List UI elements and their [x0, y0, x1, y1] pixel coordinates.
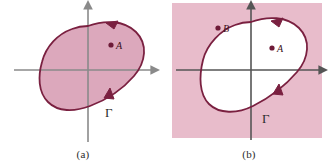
- point-label-a: A: [276, 43, 284, 54]
- point-label-b: B: [223, 23, 229, 34]
- panel-b: B A Γ (b): [166, 0, 332, 162]
- curve-label-gamma-a: Γ: [105, 105, 113, 120]
- point-marker-b: [215, 25, 220, 30]
- curve-label-gamma-b: Γ: [262, 111, 270, 126]
- point-marker-a: [269, 45, 274, 50]
- panel-caption-b: (b): [166, 148, 332, 160]
- panel-caption-a: (a): [0, 148, 166, 160]
- panel-b-diagram: B A Γ: [166, 0, 332, 162]
- point-label-a: A: [115, 40, 123, 51]
- point-marker-a: [108, 42, 113, 47]
- figure-container: A Γ (a): [0, 0, 332, 162]
- panel-a-diagram: A Γ: [0, 0, 166, 162]
- region-fill-a: [40, 22, 145, 110]
- panel-a: A Γ (a): [0, 0, 166, 162]
